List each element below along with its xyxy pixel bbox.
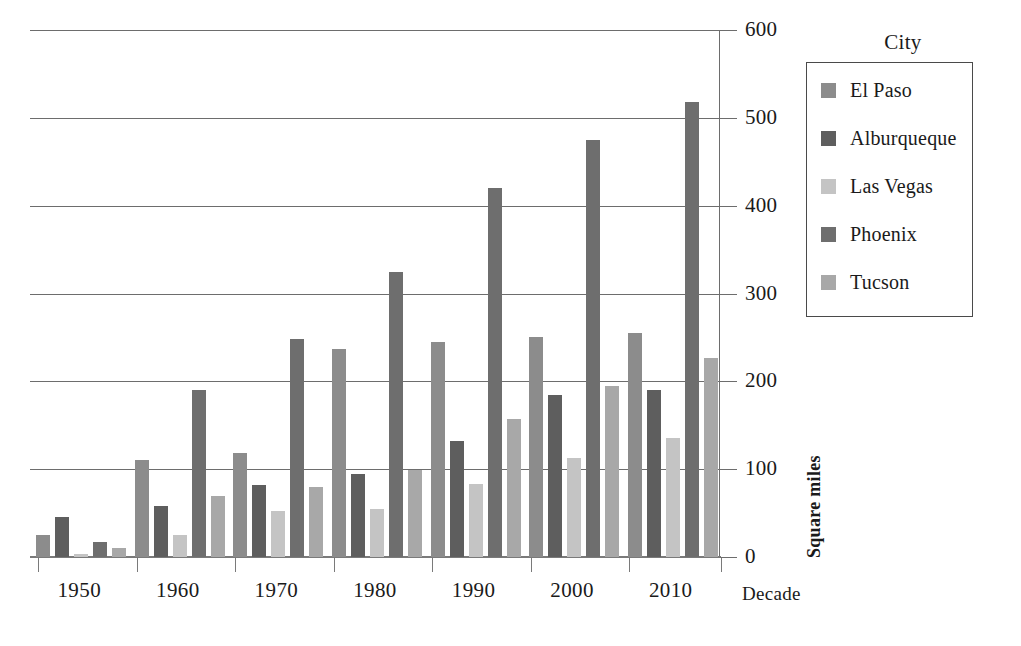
y-tick-label: 500 [745, 107, 777, 128]
bars-layer [30, 30, 720, 557]
legend-item-tucson[interactable]: Tucson [821, 271, 909, 293]
bar [488, 188, 502, 557]
legend-swatch-icon [821, 275, 836, 290]
y-tick-label: 100 [745, 458, 777, 479]
bar [666, 438, 680, 557]
x-tick-label: 1980 [326, 578, 425, 602]
y-tick-600 [720, 30, 737, 31]
x-tick-label: 2000 [523, 578, 622, 602]
bar [685, 102, 699, 557]
bar [469, 484, 483, 557]
bar [112, 548, 126, 557]
y-tick-100 [720, 469, 737, 470]
x-tick-2010 [629, 558, 630, 572]
x-tick-1990 [432, 558, 433, 572]
bar [507, 419, 521, 557]
legend-label: Alburqueque [850, 127, 957, 149]
bar [529, 337, 543, 557]
y-tick-label: 200 [745, 370, 777, 391]
x-tick-2000 [531, 558, 532, 572]
legend-item-las-vegas[interactable]: Las Vegas [821, 175, 933, 197]
bar [36, 535, 50, 557]
bar [309, 487, 323, 557]
y-tick-label: 600 [745, 19, 777, 40]
bar [74, 554, 88, 558]
legend-label: Tucson [850, 271, 909, 293]
legend-item-phoenix[interactable]: Phoenix [821, 223, 917, 245]
legend-label: El Paso [850, 79, 912, 101]
legend-title: City [808, 30, 998, 55]
legend-label: Phoenix [850, 223, 917, 245]
y-tick-200 [720, 381, 737, 382]
bar [567, 458, 581, 557]
x-tick-label: 1990 [424, 578, 523, 602]
legend-label: Las Vegas [850, 175, 933, 197]
bar [233, 453, 247, 557]
bar [370, 509, 384, 557]
legend-swatch-icon [821, 83, 836, 98]
bar [647, 390, 661, 557]
bar [192, 390, 206, 557]
bar [173, 535, 187, 557]
legend-swatch-icon [821, 179, 836, 194]
bar-chart: 0100200300400500600 19501960197019801990… [0, 0, 1021, 646]
x-tick-1970 [235, 558, 236, 572]
y-tick-400 [720, 206, 737, 207]
bar [55, 517, 69, 557]
x-tick-1980 [334, 558, 335, 572]
x-tick-label: 1960 [129, 578, 228, 602]
y-tick-label: 400 [745, 195, 777, 216]
x-tick-label: 2010 [621, 578, 720, 602]
bar [628, 333, 642, 557]
y-tick-300 [720, 294, 737, 295]
bar [271, 511, 285, 557]
bar [135, 460, 149, 557]
bar [351, 474, 365, 557]
bar [290, 339, 304, 557]
bar [154, 506, 168, 557]
x-tick-1960 [137, 558, 138, 572]
y-axis-title: Square miles [804, 455, 825, 558]
y-tick-label: 0 [745, 546, 756, 567]
legend-item-el-paso[interactable]: El Paso [821, 79, 912, 101]
bar [408, 470, 422, 557]
legend-swatch-icon [821, 131, 836, 146]
bar [548, 395, 562, 557]
bar [332, 349, 346, 557]
bar [252, 485, 266, 557]
y-tick-label: 300 [745, 283, 777, 304]
x-tick-label: 1950 [30, 578, 129, 602]
y-tick-500 [720, 118, 737, 119]
bar [586, 140, 600, 557]
bar [431, 342, 445, 557]
x-tick-label: 1970 [227, 578, 326, 602]
x-tick-1950 [38, 558, 39, 572]
legend-item-alburqueque[interactable]: Alburqueque [821, 127, 957, 149]
bar [93, 542, 107, 557]
x-axis-title: Decade [742, 583, 801, 605]
bar [605, 386, 619, 557]
bar [704, 358, 718, 557]
legend-swatch-icon [821, 227, 836, 242]
y-tick-0 [720, 557, 737, 558]
x-tick-end [721, 558, 722, 572]
bar [389, 272, 403, 557]
bar [450, 441, 464, 557]
legend: El PasoAlburquequeLas VegasPhoenixTucson [806, 62, 973, 317]
bar [211, 496, 225, 557]
